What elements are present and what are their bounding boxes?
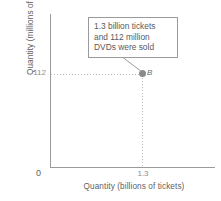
chart-figure: Quantity (millions of DVDs) Quantity (bi…: [0, 0, 221, 201]
x-axis-title: Quantity (billions of tickets): [50, 182, 218, 191]
x-axis-line: [50, 167, 215, 168]
annotation-line-3: DVDs were sold: [94, 42, 173, 53]
annotation-callout: 1.3 billion tickets and 112 million DVDs…: [88, 17, 178, 58]
annotation-line-1: 1.3 billion tickets: [94, 21, 173, 32]
annotation-line-2: and 112 million: [94, 32, 173, 43]
data-point-b: [139, 70, 146, 77]
guide-line-vertical: [142, 75, 143, 167]
data-point-label-b: B: [147, 68, 152, 77]
y-axis-title: Quantity (millions of DVDs): [26, 0, 35, 95]
guide-line-horizontal: [51, 74, 142, 75]
y-axis-line: [50, 14, 51, 168]
x-tick-label-1-3: 1.3: [128, 169, 158, 178]
y-tick-label-112: 112: [33, 68, 46, 77]
origin-label: 0: [36, 168, 41, 178]
